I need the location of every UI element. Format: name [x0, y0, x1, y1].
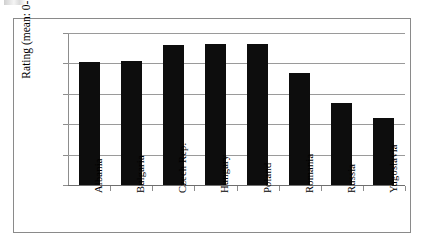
x-axis-tick	[194, 186, 195, 191]
x-axis-tick	[110, 186, 111, 191]
gridline	[68, 124, 405, 125]
y-axis-title: Rating (mean: 0-10)	[20, 0, 32, 107]
x-axis-tick-label: Bulgaria	[135, 155, 146, 193]
x-axis-tick-label: Hungary	[219, 155, 230, 193]
x-axis-tick	[152, 186, 153, 191]
gridline	[68, 33, 405, 34]
x-axis-tick-label: Albania	[93, 158, 104, 193]
x-axis-tick-label: Yugoslavia	[388, 144, 399, 193]
gridline	[68, 63, 405, 64]
x-axis-tick	[321, 186, 322, 191]
x-axis-tick-label: Russia	[346, 164, 357, 193]
x-axis-tick	[363, 186, 364, 191]
figure: Rating (mean: 0-10) 0246810 AlbaniaBulga…	[0, 0, 429, 251]
plot-area	[68, 33, 405, 185]
gridline	[68, 94, 405, 95]
x-axis-tick	[405, 186, 406, 191]
x-axis-tick	[279, 186, 280, 191]
x-axis-tick-label: Czech Rep.	[177, 143, 188, 193]
x-axis-tick	[237, 186, 238, 191]
x-axis-tick-label: Poland	[262, 163, 273, 193]
x-axis-tick-label: Romania	[304, 154, 315, 193]
gridline	[68, 155, 405, 156]
